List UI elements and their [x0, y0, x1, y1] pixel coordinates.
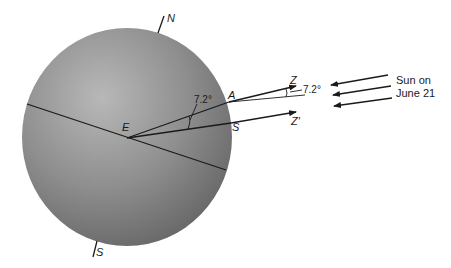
north-axis-stub: [158, 16, 164, 33]
sun-ray-3: [334, 98, 392, 106]
label-inner-angle: 7.2°: [194, 94, 212, 105]
label-south-pole: S: [96, 246, 104, 258]
outer-angle-leader: [290, 90, 302, 92]
label-point-a: A: [227, 89, 235, 101]
label-north: N: [167, 12, 175, 24]
outer-angle-arc: [286, 89, 287, 97]
label-center-e: E: [122, 121, 130, 133]
label-zenith: Z: [289, 74, 298, 86]
label-sun-line1: Sun on: [396, 74, 431, 86]
zenith-arrow: [229, 86, 296, 102]
sun-ray-1: [331, 75, 388, 85]
label-outer-angle: 7.2°: [303, 84, 321, 95]
parallel-ray-a: [229, 95, 305, 102]
sun-ray-2: [333, 86, 391, 95]
label-sun-line2: June 21: [396, 87, 435, 99]
label-zenith-prime: Z′: [290, 115, 301, 127]
earth-sun-angle-diagram: N S E A S Z Z′ 7.2° 7.2° Sun on June 21: [0, 0, 451, 268]
label-point-s: S: [232, 121, 240, 133]
zenith-prime-arrow: [231, 112, 296, 123]
